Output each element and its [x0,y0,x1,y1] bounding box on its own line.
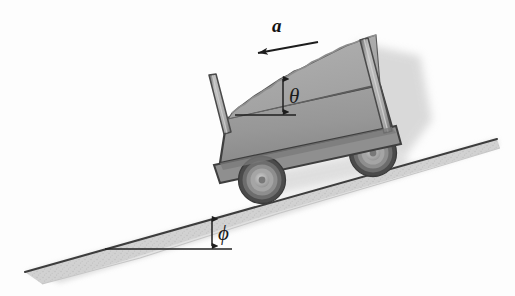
theta-label: θ [289,84,299,108]
physics-diagram-figure: θ ϕ a [0,0,515,296]
acceleration-label: a [272,15,282,36]
phi-label: ϕ [218,221,229,245]
diagram-canvas: θ ϕ a [0,0,515,296]
